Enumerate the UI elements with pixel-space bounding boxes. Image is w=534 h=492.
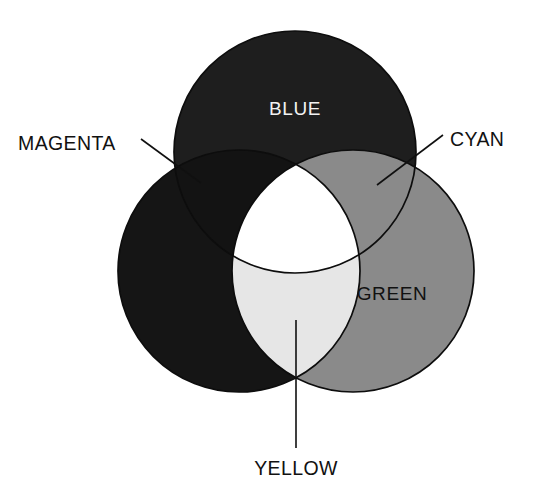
label-blue: BLUE bbox=[269, 98, 321, 119]
label-cyan: CYAN bbox=[450, 128, 504, 150]
label-magenta: MAGENTA bbox=[18, 132, 116, 154]
label-yellow: YELLOW bbox=[254, 457, 338, 479]
venn-diagram-canvas: BLUE GREEN MAGENTA CYAN YELLOW bbox=[0, 0, 534, 492]
label-green: GREEN bbox=[357, 283, 428, 304]
venn-diagram-svg: BLUE GREEN MAGENTA CYAN YELLOW bbox=[0, 0, 534, 492]
